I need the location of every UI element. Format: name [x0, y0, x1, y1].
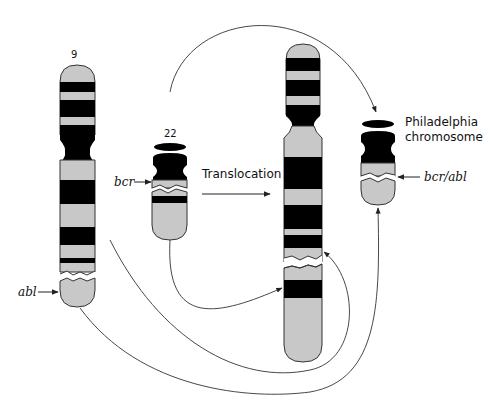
philadelphia-label-line2: chromosome — [405, 130, 483, 144]
chromosome-22-label: 22 — [164, 128, 177, 139]
arc-22-to-der9 — [170, 240, 282, 309]
arc-abl-to-philadelphia — [80, 208, 379, 394]
translocation-label: Translocation — [201, 167, 281, 181]
chromosome-22: 22 — [152, 128, 187, 240]
bcr-label: bcr — [114, 175, 135, 189]
diagram-svg: 9 abl 22 bcr Translocation — [0, 0, 492, 409]
arc-22-to-philadelphia — [170, 26, 376, 113]
translocation-diagram: 9 abl 22 bcr Translocation — [0, 0, 492, 409]
chromosome-9-label: 9 — [71, 49, 77, 60]
philadelphia-chromosome — [361, 120, 395, 205]
abl-label: abl — [18, 285, 37, 299]
figure-caption — [6, 402, 486, 409]
derivative-chromosome-9 — [284, 44, 322, 362]
bcr-abl-label: bcr/abl — [424, 170, 467, 184]
philadelphia-label-line1: Philadelphia — [405, 115, 478, 129]
chromosome-9: 9 — [60, 49, 95, 307]
